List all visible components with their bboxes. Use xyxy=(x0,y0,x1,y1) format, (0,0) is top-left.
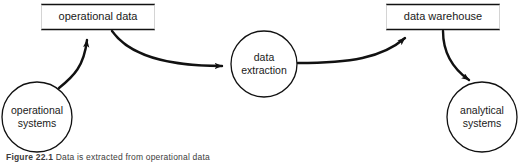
data-flow-diagram: operational data data warehouse operatio… xyxy=(0,0,525,163)
operational-data-label: operational data xyxy=(59,10,139,22)
process-data-extraction[interactable]: data extraction xyxy=(231,31,297,97)
flow-arrow-opdata-to-extraction xyxy=(112,31,222,66)
analytical-systems-label-line2: systems xyxy=(463,117,502,129)
figure-container: operational data data warehouse operatio… xyxy=(0,0,525,163)
process-operational-systems[interactable]: operational systems xyxy=(2,82,72,152)
analytical-systems-label-line1: analytical xyxy=(460,104,504,116)
figure-caption-number: Figure 22.1 xyxy=(6,152,53,162)
flow-arrow-extraction-to-warehouse xyxy=(298,38,405,63)
operational-systems-label-line1: operational xyxy=(11,104,63,116)
operational-systems-label-line2: systems xyxy=(18,117,57,129)
data-extraction-label-line1: data xyxy=(254,51,275,63)
process-analytical-systems[interactable]: analytical systems xyxy=(447,82,517,152)
figure-caption-body: Data is extracted from operational data xyxy=(56,152,210,162)
data-store-data-warehouse[interactable]: data warehouse xyxy=(386,5,500,30)
data-warehouse-label: data warehouse xyxy=(404,10,482,22)
flow-arrow-opsys-to-opdata xyxy=(59,40,87,88)
figure-caption: Figure 22.1 Data is extracted from opera… xyxy=(6,152,210,162)
data-store-operational-data[interactable]: operational data xyxy=(41,5,155,30)
data-extraction-label-line2: extraction xyxy=(241,64,287,76)
flow-arrow-warehouse-to-analytical xyxy=(443,31,469,80)
